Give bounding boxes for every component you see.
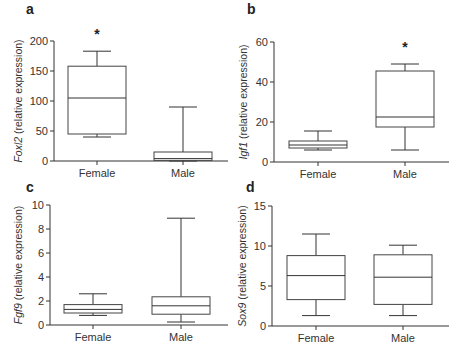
box-male: Male xyxy=(154,107,212,179)
box-female: Female xyxy=(289,131,347,180)
y-tick-label: 15 xyxy=(254,200,266,212)
y-tick-label: 0 xyxy=(262,156,268,168)
y-tick-label: 10 xyxy=(254,240,266,252)
y-axis-label: Igf1 (relative expression) xyxy=(237,45,249,160)
category-label: Female xyxy=(300,168,337,180)
y-tick-label: 4 xyxy=(38,271,44,283)
box-female: Female xyxy=(64,294,122,343)
y-tick-label: 50 xyxy=(36,125,48,137)
category-label: Male xyxy=(171,167,195,179)
category-label: Male xyxy=(169,331,193,343)
y-axis-label: Sox9 (relative expression) xyxy=(236,205,248,326)
y-tick-label: 10 xyxy=(32,199,44,211)
category-label: Male xyxy=(393,168,417,180)
panel-b: b0204060Igf1 (relative expression)Female… xyxy=(237,1,449,180)
y-tick-label: 6 xyxy=(38,247,44,259)
box-female: Female xyxy=(287,234,345,344)
iqr-box xyxy=(287,256,345,300)
y-tick-label: 0 xyxy=(38,319,44,331)
category-label: Male xyxy=(391,332,415,344)
y-tick-label: 2 xyxy=(38,295,44,307)
panel-label: c xyxy=(26,179,34,195)
significance-asterisk: * xyxy=(402,39,408,55)
panel-label: b xyxy=(247,1,256,17)
panel-label: a xyxy=(26,1,34,17)
panel-a: a050100150200Foxl2 (relative expression)… xyxy=(12,1,228,179)
panel-d: d051015Sox9 (relative expression)FemaleM… xyxy=(236,179,449,344)
iqr-box xyxy=(64,305,122,313)
y-tick-label: 150 xyxy=(30,65,48,77)
panel-c: c0246810Fgf9 (relative expression)Female… xyxy=(12,179,228,343)
y-tick-label: 8 xyxy=(38,223,44,235)
y-tick-label: 40 xyxy=(256,76,268,88)
figure-canvas: a050100150200Foxl2 (relative expression)… xyxy=(0,0,467,355)
panel-label: d xyxy=(246,179,255,195)
significance-asterisk: * xyxy=(94,26,100,42)
iqr-box xyxy=(154,152,212,160)
y-tick-label: 0 xyxy=(42,155,48,167)
box-female: Female* xyxy=(68,26,126,179)
y-tick-label: 100 xyxy=(30,95,48,107)
y-tick-label: 200 xyxy=(30,35,48,47)
category-label: Female xyxy=(298,332,335,344)
y-axis-label: Foxl2 (relative expression) xyxy=(12,39,24,162)
y-tick-label: 0 xyxy=(260,320,266,332)
box-male: Male* xyxy=(376,39,434,180)
iqr-box xyxy=(68,66,126,134)
y-tick-label: 60 xyxy=(256,36,268,48)
y-tick-label: 20 xyxy=(256,116,268,128)
y-tick-label: 5 xyxy=(260,280,266,292)
y-axis-label: Fgf9 (relative expression) xyxy=(12,206,24,324)
category-label: Female xyxy=(75,331,112,343)
iqr-box xyxy=(376,71,434,127)
category-label: Female xyxy=(79,167,116,179)
iqr-box xyxy=(374,255,432,305)
box-male: Male xyxy=(152,218,210,343)
box-male: Male xyxy=(374,245,432,344)
